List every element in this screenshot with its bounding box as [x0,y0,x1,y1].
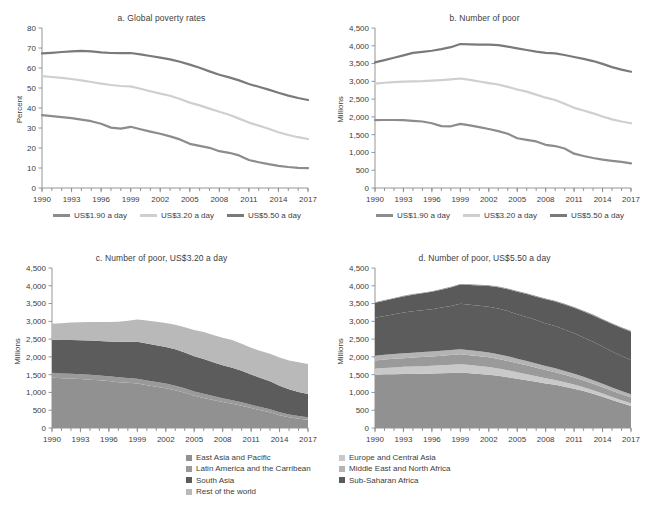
svg-text:500: 500 [356,406,370,415]
panel-d-y-axis-label: Millions [336,322,345,382]
svg-text:2002: 2002 [157,435,175,444]
legend-item[interactable]: South Asia [186,476,311,485]
legend-line-swatch [463,214,480,217]
panel-b-y-axis-label: Millions [336,80,345,140]
legend-item[interactable]: Latin America and the Carribean [186,464,311,473]
legend-label: US$3.20 a day [161,211,214,220]
panel-d: d. Number of poor, US$5.50 a day Million… [323,240,646,526]
legend-item[interactable]: Sub-Saharan Africa [339,476,450,485]
svg-text:2011: 2011 [240,195,258,204]
legend-item[interactable]: US$1.90 a day [376,211,450,220]
legend-label: US$1.90 a day [397,211,450,220]
panel-b: b. Number of poor Millions 05001,0001,50… [323,0,646,240]
svg-text:2,000: 2,000 [349,353,370,362]
svg-text:2,500: 2,500 [26,335,47,344]
svg-text:4,000: 4,000 [349,42,370,51]
svg-text:2,000: 2,000 [26,353,47,362]
legend-color-swatch [186,489,192,495]
svg-text:1999: 1999 [451,195,469,204]
svg-text:1996: 1996 [92,195,110,204]
svg-text:70: 70 [27,44,36,53]
svg-text:0: 0 [32,184,37,193]
legend-line-swatch [53,214,70,217]
panel-b-title: b. Number of poor [323,13,646,23]
legend-label: US$1.90 a day [74,211,127,220]
svg-text:1,000: 1,000 [349,148,370,157]
panel-b-plot: 05001,0001,5002,0002,5003,0003,5004,0004… [375,28,631,188]
panel-c: c. Number of poor, US$3.20 a day Million… [0,240,323,526]
legend-item[interactable]: US$5.50 a day [550,211,624,220]
svg-text:3,500: 3,500 [349,299,370,308]
svg-text:0: 0 [365,424,370,433]
svg-text:2017: 2017 [622,195,640,204]
svg-text:2014: 2014 [594,195,612,204]
legend-color-swatch [186,477,192,483]
legend-item[interactable]: US$5.50 a day [227,211,301,220]
svg-text:1990: 1990 [366,435,384,444]
legend-item[interactable]: US$1.90 a day [53,211,127,220]
legend-color-swatch [339,477,345,483]
svg-text:1990: 1990 [43,435,61,444]
panel-c-legend: East Asia and Pacific Latin America and … [186,453,311,496]
svg-text:2002: 2002 [151,195,169,204]
panel-a-plot: 0102030405060708019901993199619992002200… [42,28,308,188]
panel-a-legend: US$1.90 a day US$3.20 a day US$5.50 a da… [46,211,308,220]
svg-text:2,500: 2,500 [349,95,370,104]
legend-color-swatch [186,455,192,461]
svg-text:3,500: 3,500 [26,299,47,308]
svg-text:40: 40 [27,104,36,113]
legend-label: Middle East and North Africa [349,464,450,473]
svg-text:2008: 2008 [210,195,228,204]
legend-item[interactable]: US$3.20 a day [463,211,537,220]
svg-text:80: 80 [27,24,36,33]
svg-text:4,500: 4,500 [349,24,370,33]
svg-text:2002: 2002 [480,435,498,444]
svg-text:1993: 1993 [395,195,413,204]
svg-text:1,500: 1,500 [26,371,47,380]
svg-text:1,000: 1,000 [349,388,370,397]
svg-text:30: 30 [27,124,36,133]
svg-text:2,500: 2,500 [349,335,370,344]
legend-item[interactable]: US$3.20 a day [140,211,214,220]
legend-line-swatch [227,214,244,217]
legend-color-swatch [339,455,345,461]
legend-label: Sub-Saharan Africa [349,476,418,485]
panel-a: a. Global poverty rates Percent 01020304… [0,0,323,240]
panel-a-y-axis-label: Percent [15,80,24,140]
legend-color-swatch [186,466,192,472]
svg-text:2011: 2011 [566,195,584,204]
figure-grid: a. Global poverty rates Percent 01020304… [0,0,646,526]
svg-text:2002: 2002 [480,195,498,204]
svg-text:3,000: 3,000 [26,317,47,326]
legend-label: Latin America and the Carribean [196,464,311,473]
legend-item[interactable]: East Asia and Pacific [186,453,311,462]
svg-text:1999: 1999 [128,435,146,444]
legend-item[interactable]: Middle East and North Africa [339,464,450,473]
svg-text:2014: 2014 [270,195,288,204]
legend-color-swatch [339,466,345,472]
panel-d-title: d. Number of poor, US$5.50 a day [323,253,646,263]
svg-text:1,000: 1,000 [26,388,47,397]
svg-text:50: 50 [27,84,36,93]
panel-a-title: a. Global poverty rates [0,13,323,23]
svg-text:2005: 2005 [508,195,526,204]
svg-text:4,000: 4,000 [26,282,47,291]
svg-text:10: 10 [27,164,36,173]
svg-text:1,500: 1,500 [349,371,370,380]
legend-item[interactable]: Rest of the world [186,487,311,496]
svg-text:2014: 2014 [271,435,289,444]
svg-text:20: 20 [27,144,36,153]
svg-text:0: 0 [42,424,47,433]
svg-text:1999: 1999 [451,435,469,444]
legend-line-swatch [140,214,157,217]
svg-text:1996: 1996 [423,195,441,204]
svg-text:1993: 1993 [72,435,90,444]
svg-text:2017: 2017 [299,435,317,444]
svg-text:2008: 2008 [537,195,555,204]
svg-text:1,500: 1,500 [349,131,370,140]
svg-text:4,000: 4,000 [349,282,370,291]
legend-line-swatch [376,214,393,217]
legend-item[interactable]: Europe and Central Asia [339,453,450,462]
svg-text:60: 60 [27,64,36,73]
svg-text:3,000: 3,000 [349,77,370,86]
